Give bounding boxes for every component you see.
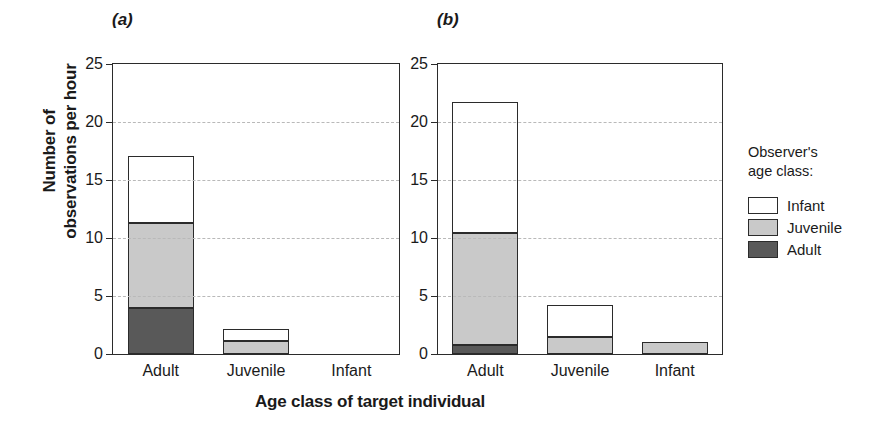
panel-a-bars — [113, 64, 399, 354]
y-tick-10 — [431, 238, 438, 239]
legend-item-adult: Adult — [748, 241, 871, 258]
gridline-20 — [438, 122, 722, 123]
y-tick-label-0: 0 — [392, 346, 428, 362]
y-tick-label-5: 5 — [67, 288, 103, 304]
y-tick-10 — [106, 238, 113, 239]
legend-swatch-infant — [748, 197, 778, 214]
panel-a: (a) 0510152025AdultJuvenileInfant — [58, 0, 408, 428]
panel-a-tag: (a) — [112, 10, 133, 30]
bar-segment-infant-juvenile — [642, 342, 708, 354]
gridline-20 — [113, 122, 399, 123]
legend-label-infant: Infant — [787, 197, 825, 214]
gridline-10 — [113, 238, 399, 239]
x-tick-label-infant: Infant — [615, 362, 735, 380]
bar-segment-adult-adult — [128, 308, 194, 354]
gridline-5 — [113, 296, 399, 297]
y-tick-label-20: 20 — [67, 114, 103, 130]
y-tick-20 — [106, 122, 113, 123]
gridline-5 — [438, 296, 722, 297]
bar-segment-juvenile-juvenile — [223, 341, 289, 354]
legend-label-juvenile: Juvenile — [787, 219, 842, 236]
y-tick-0 — [431, 354, 438, 355]
bar-segment-juvenile-infant — [547, 305, 613, 336]
y-axis-label-line-1: Number of — [39, 1, 60, 301]
legend-label-adult: Adult — [787, 241, 821, 258]
legend-item-juvenile: Juvenile — [748, 219, 871, 236]
panel-b-plot-area: 0510152025AdultJuvenileInfant — [437, 63, 723, 355]
legend: Observer's age class: Infant Juvenile Ad… — [748, 143, 871, 263]
gridline-15 — [438, 180, 722, 181]
y-tick-25 — [431, 64, 438, 65]
y-tick-label-15: 15 — [392, 172, 428, 188]
y-tick-5 — [106, 296, 113, 297]
legend-swatch-juvenile — [748, 219, 778, 236]
y-tick-5 — [431, 296, 438, 297]
y-tick-label-10: 10 — [67, 230, 103, 246]
figure-stacked-bar-chart: Number of observations per hour (a) 0510… — [0, 0, 871, 428]
y-tick-25 — [106, 64, 113, 65]
legend-title-line-2: age class: — [748, 162, 871, 181]
bar-segment-adult-infant — [128, 156, 194, 223]
panel-b-bars — [438, 64, 722, 354]
y-tick-label-25: 25 — [392, 56, 428, 72]
bar-segment-adult-juvenile — [128, 223, 194, 308]
y-tick-label-10: 10 — [392, 230, 428, 246]
bar-segment-adult-juvenile — [452, 233, 518, 344]
y-tick-label-0: 0 — [67, 346, 103, 362]
y-tick-20 — [431, 122, 438, 123]
bar-segment-juvenile-infant — [223, 329, 289, 342]
y-tick-label-25: 25 — [67, 56, 103, 72]
panel-b-tag: (b) — [437, 10, 459, 30]
gridline-15 — [113, 180, 399, 181]
y-tick-15 — [431, 180, 438, 181]
legend-swatch-adult — [748, 241, 778, 258]
bar-segment-adult-adult — [452, 345, 518, 354]
panel-b: (b) 0510152025AdultJuvenileInfant — [383, 0, 728, 428]
legend-title-line-1: Observer's — [748, 143, 871, 162]
y-tick-15 — [106, 180, 113, 181]
x-axis-label: Age class of target individual — [120, 392, 620, 412]
legend-item-infant: Infant — [748, 197, 871, 214]
panel-a-plot-area: 0510152025AdultJuvenileInfant — [112, 63, 400, 355]
y-tick-label-20: 20 — [392, 114, 428, 130]
y-tick-0 — [106, 354, 113, 355]
y-tick-label-5: 5 — [392, 288, 428, 304]
legend-title: Observer's age class: — [748, 143, 871, 181]
bar-segment-juvenile-juvenile — [547, 337, 613, 354]
y-tick-label-15: 15 — [67, 172, 103, 188]
gridline-10 — [438, 238, 722, 239]
